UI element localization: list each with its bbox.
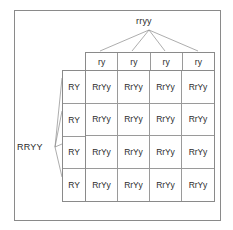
row-gamete-header: RY [63, 71, 85, 104]
row-gamete-header: RY [63, 137, 85, 170]
offspring-cell: RrYy [86, 136, 118, 169]
offspring-cell: RrYy [118, 169, 150, 202]
column-gamete-header-row: ry ry ry ry [85, 52, 215, 72]
column-gamete-header: ry [183, 53, 214, 71]
offspring-cell: RrYy [182, 104, 214, 137]
offspring-cell: RrYy [150, 71, 182, 104]
offspring-cell: RrYy [86, 104, 118, 137]
offspring-cell: RrYy [118, 71, 150, 104]
offspring-cell: RrYy [118, 104, 150, 137]
row-gamete-header-column: RY RY RY RY [62, 70, 86, 202]
column-gamete-header: ry [151, 53, 183, 71]
offspring-cell: RrYy [182, 169, 214, 202]
offspring-cell: RrYy [150, 169, 182, 202]
punnett-grid-body: RrYy RrYy RrYy RrYy RrYy RrYy RrYy RrYy … [85, 70, 215, 202]
offspring-cell: RrYy [182, 136, 214, 169]
offspring-cell: RrYy [118, 136, 150, 169]
offspring-cell: RrYy [86, 71, 118, 104]
punnett-square-diagram: rryy RRYY ry ry ry ry RY RY RY RY RrYy R… [0, 0, 233, 230]
row-gamete-header: RY [63, 104, 85, 137]
offspring-cell: RrYy [150, 104, 182, 137]
left-parent-genotype-label: RRYY [17, 142, 43, 152]
row-gamete-header: RY [63, 169, 85, 201]
offspring-cell: RrYy [150, 136, 182, 169]
top-parent-genotype-label: rryy [136, 16, 152, 26]
offspring-cell: RrYy [86, 169, 118, 202]
column-gamete-header: ry [118, 53, 150, 71]
column-gamete-header: ry [86, 53, 118, 71]
offspring-cell: RrYy [182, 71, 214, 104]
